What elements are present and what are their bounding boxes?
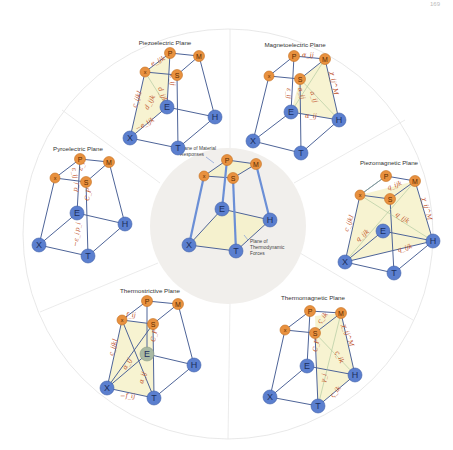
svg-text:γ_i: γ_i <box>319 373 328 383</box>
svg-text:T: T <box>315 401 321 411</box>
svg-text:X: X <box>186 240 192 250</box>
svg-text:S: S <box>175 72 180 79</box>
svg-text:M: M <box>175 301 181 308</box>
svg-text:X: X <box>127 133 133 143</box>
sector-title: Magnetoelectric Plane <box>264 41 326 48</box>
svg-text:T: T <box>233 246 239 256</box>
svg-text:P: P <box>292 53 297 60</box>
svg-text:P: P <box>384 173 389 180</box>
svg-text:−f_ij: −f_ij <box>120 392 135 400</box>
svg-text:M: M <box>253 161 259 168</box>
sector-title: Piezomagnetic Plane <box>360 159 419 166</box>
svg-text:M: M <box>106 159 112 166</box>
svg-text:M: M <box>322 56 328 63</box>
svg-text:P: P <box>225 157 230 164</box>
svg-text:H: H <box>122 219 129 229</box>
svg-text:S: S <box>313 330 318 337</box>
svg-text:P: P <box>308 308 313 315</box>
svg-text:X: X <box>250 136 256 146</box>
svg-text:E: E <box>288 107 294 117</box>
label-plane-material: Plane of Material <box>180 146 216 151</box>
svg-text:M: M <box>196 53 202 60</box>
svg-text:X: X <box>342 257 348 267</box>
svg-text:X: X <box>267 392 273 402</box>
svg-text:x: x <box>203 173 206 179</box>
svg-text:p_i: p_i <box>73 222 83 233</box>
svg-text:E: E <box>219 204 225 214</box>
svg-text:E: E <box>164 102 170 112</box>
sector-title: Thermostrictive Plane <box>120 287 180 294</box>
svg-text:Forces: Forces <box>250 251 265 256</box>
label-plane-forces: Plane of <box>250 239 268 244</box>
svg-text:S: S <box>151 321 156 328</box>
svg-text:X: X <box>36 240 42 250</box>
svg-text:x: x <box>359 192 362 198</box>
svg-text:X: X <box>104 383 110 393</box>
page-number: 169 <box>430 1 441 7</box>
svg-text:T: T <box>151 393 157 403</box>
svg-text:p_i: p_i <box>71 182 81 193</box>
svg-text:M: M <box>338 310 344 317</box>
svg-text:E: E <box>74 208 80 218</box>
svg-text:x: x <box>121 317 124 323</box>
svg-text:H: H <box>267 215 274 225</box>
svg-text:M: M <box>412 178 418 185</box>
svg-text:H: H <box>336 115 343 125</box>
svg-text:α_ij: α_ij <box>302 51 314 59</box>
svg-text:S: S <box>231 175 236 182</box>
svg-text:α_ij: α_ij <box>305 112 317 120</box>
svg-text:E: E <box>144 349 150 359</box>
svg-text:x: x <box>144 69 147 75</box>
svg-text:T: T <box>298 148 304 158</box>
svg-text:T: T <box>85 251 91 261</box>
svg-text:x: x <box>54 175 57 181</box>
svg-text:E: E <box>304 361 310 371</box>
svg-text:H: H <box>191 360 198 370</box>
svg-text:H: H <box>430 236 437 246</box>
svg-text:Responses: Responses <box>180 152 205 157</box>
svg-text:P: P <box>168 50 173 57</box>
svg-text:T: T <box>391 268 397 278</box>
svg-text:x: x <box>268 73 271 79</box>
svg-text:T: T <box>175 143 181 153</box>
svg-text:S: S <box>84 179 89 186</box>
svg-text:P: P <box>145 298 150 305</box>
sector-title: Piezoelectric Plane <box>139 39 192 46</box>
material-response-diagram: 169 P M x S E H X T Plane of Mate <box>0 0 453 450</box>
sector-title: Pyroelectric Plane <box>53 145 103 152</box>
svg-text:H: H <box>212 112 219 122</box>
svg-text:E: E <box>380 226 386 236</box>
svg-text:ε_ij: ε_ij <box>285 88 293 99</box>
svg-text:x: x <box>284 327 287 333</box>
svg-text:H: H <box>352 370 359 380</box>
svg-text:Thermodynamic: Thermodynamic <box>250 245 285 250</box>
svg-text:P: P <box>78 156 83 163</box>
sector-title: Thermomagnetic Plane <box>281 294 346 301</box>
svg-text:S: S <box>298 76 303 83</box>
svg-text:S: S <box>388 196 393 203</box>
